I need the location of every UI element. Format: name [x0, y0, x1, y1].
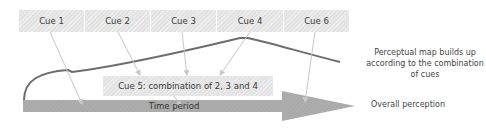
connector-cue3 — [182, 32, 187, 75]
connector-cue6 — [305, 32, 315, 102]
time-period-label: Time period — [24, 99, 324, 113]
cue-1-box: Cue 1 — [19, 10, 84, 32]
cue-3-box: Cue 3 — [151, 10, 216, 32]
cue-5-box: Cue 5: combination of 2, 3 and 4 — [103, 76, 273, 96]
cue-2-box: Cue 2 — [85, 10, 150, 32]
connector-cue2 — [118, 32, 140, 75]
cue-6-label: Cue 6 — [304, 16, 329, 26]
cue-2-label: Cue 2 — [105, 16, 130, 26]
cue-6-box: Cue 6 — [284, 10, 349, 32]
cue-1-label: Cue 1 — [39, 16, 64, 26]
cue-5-label: Cue 5: combination of 2, 3 and 4 — [118, 81, 258, 91]
cue-4-label: Cue 4 — [238, 16, 263, 26]
perceptual-map-note: Perceptual map builds up according to th… — [365, 47, 485, 80]
cue-3-label: Cue 3 — [171, 16, 196, 26]
cue-4-box: Cue 4 — [217, 10, 283, 32]
overall-perception-label: Overall perception — [371, 100, 445, 109]
connector-cue1 — [50, 32, 82, 104]
